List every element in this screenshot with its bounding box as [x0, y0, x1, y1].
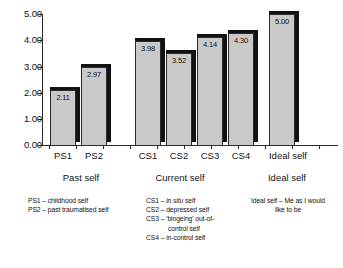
x-axis-label-cs4: CS4: [224, 150, 258, 162]
x-tick-mark-2: [103, 146, 104, 149]
legend-note-cs3-line1: CS3 – 'bingeing' out-of-: [146, 214, 242, 223]
bar-shadow-top: [197, 34, 227, 38]
bar-shadow-top: [135, 38, 165, 42]
y-tick-label-5: 5.00: [0, 9, 42, 19]
y-tick-label-1: 1.00: [0, 114, 42, 124]
bar-value-label-cs3: 4.14: [199, 40, 221, 49]
bar-cs3[interactable]: 4.14: [197, 37, 223, 146]
x-tick-mark-4: [157, 146, 158, 149]
y-tick-label-0: 0.00: [0, 140, 42, 150]
bar-shadow: [160, 39, 165, 142]
y-tick-label-3: 3.00: [0, 62, 42, 72]
x-axis-label-ps1: PS1: [46, 150, 80, 162]
x-tick-mark-8: [265, 146, 266, 149]
x-tick-mark-10: [319, 146, 320, 149]
x-axis-label-cs2: CS2: [162, 150, 196, 162]
bar-chart-figure: 5.00 4.00 3.00 2.00 1.00 0.00 2.11 2.97: [0, 0, 343, 268]
group-label-current-self: Current self: [140, 172, 220, 184]
bar-cs2[interactable]: 3.52: [166, 53, 192, 146]
legend-notes-current-self: CS1 – in situ self CS2 – depressed self …: [146, 196, 242, 242]
plot-area: 5.00 4.00 3.00 2.00 1.00 0.00 2.11 2.97: [0, 0, 343, 160]
bar-ps2[interactable]: 2.97: [81, 67, 107, 146]
bar-value-label-ps2: 2.97: [83, 70, 105, 79]
x-axis-label-ps2: PS2: [77, 150, 111, 162]
bar-shadow: [294, 12, 299, 142]
group-label-past-self: Past self: [50, 172, 112, 184]
legend-note-ideal-line1: Ideal self – Me as I would: [236, 196, 340, 205]
bar-value-label-cs1: 3.98: [137, 44, 159, 53]
bar-shadow-top: [269, 11, 299, 15]
bar-ideal-self[interactable]: 5.00: [269, 14, 295, 146]
x-axis-label-cs3: CS3: [193, 150, 227, 162]
x-tick-mark-5: [184, 146, 185, 149]
bar-cs1[interactable]: 3.98: [135, 41, 161, 146]
legend-notes-ideal-self: Ideal self – Me as I would like to be: [236, 196, 340, 214]
bar-value-label-ideal-self: 5.00: [271, 17, 293, 26]
x-tick-mark-3: [130, 146, 131, 149]
legend-notes-past-self: PS1 – childhood self PS2 – past traumati…: [28, 196, 140, 214]
bar-shadow-top: [166, 50, 196, 54]
bar-shadow: [106, 65, 111, 142]
bar-shadow: [191, 51, 196, 142]
bar-shadow-top: [81, 64, 111, 68]
legend-note-ps2: PS2 – past traumatised self: [28, 205, 140, 214]
bar-shadow: [75, 88, 80, 142]
legend-note-cs1-suffix: self: [183, 197, 195, 204]
bar-shadow: [253, 31, 258, 142]
legend-note-ps1: PS1 – childhood self: [28, 196, 140, 205]
x-axis-label-ideal: Ideal self: [258, 150, 318, 162]
x-axis-label-cs1: CS1: [131, 150, 165, 162]
legend-note-cs1-prefix: CS1 –: [146, 197, 166, 204]
bar-shadow: [222, 35, 227, 142]
y-tick-label-4: 4.00: [0, 35, 42, 45]
bar-value-label-cs2: 3.52: [168, 56, 190, 65]
legend-note-cs1-italic: in situ: [166, 197, 183, 204]
bar-ps1[interactable]: 2.11: [50, 90, 76, 146]
x-tick-mark-7: [238, 146, 239, 149]
x-tick-mark-0: [49, 146, 50, 149]
bar-shadow-top: [50, 87, 80, 91]
y-tick-label-2: 2.00: [0, 88, 42, 98]
bar-value-label-ps1: 2.11: [52, 93, 74, 102]
bar-shadow-top: [228, 30, 258, 34]
x-tick-mark-6: [211, 146, 212, 149]
bar-value-label-cs4: 4.30: [230, 36, 252, 45]
legend-note-cs3-line2: control self: [146, 224, 242, 233]
bar-cs4[interactable]: 4.30: [228, 33, 254, 146]
legend-note-ideal-line2: like to be: [236, 205, 340, 214]
group-label-ideal-self: Ideal self: [256, 172, 318, 184]
y-axis-line: [42, 14, 43, 145]
x-tick-mark-9: [292, 146, 293, 149]
legend-note-cs2: CS2 – depressed self: [146, 205, 242, 214]
legend-note-cs1: CS1 – in situ self: [146, 196, 242, 205]
legend-note-cs4: CS4 – in-control self: [146, 233, 242, 242]
x-tick-mark-1: [76, 146, 77, 149]
